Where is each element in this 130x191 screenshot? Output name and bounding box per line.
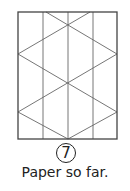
diagonal-crease [46, 12, 117, 54]
step-number-badge: 7 [56, 143, 76, 163]
diagonal-crease [18, 12, 90, 54]
step-caption: Paper so far. [0, 164, 130, 180]
diagonal-crease [68, 112, 117, 139]
